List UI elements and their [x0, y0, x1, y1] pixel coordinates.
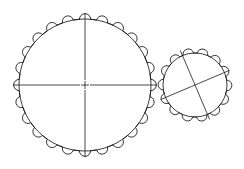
large-gear [13, 13, 157, 157]
drawing-background [0, 0, 244, 169]
gear-drawing-canvas [0, 0, 244, 169]
